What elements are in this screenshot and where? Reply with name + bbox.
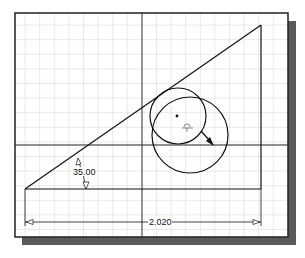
center-point[interactable] [176,115,179,118]
length-dimension-value: 2.020 [149,217,172,227]
sketch-canvas[interactable]: 35.00 2.020 [0,0,305,258]
angle-dimension-value: 35.00 [73,167,96,177]
